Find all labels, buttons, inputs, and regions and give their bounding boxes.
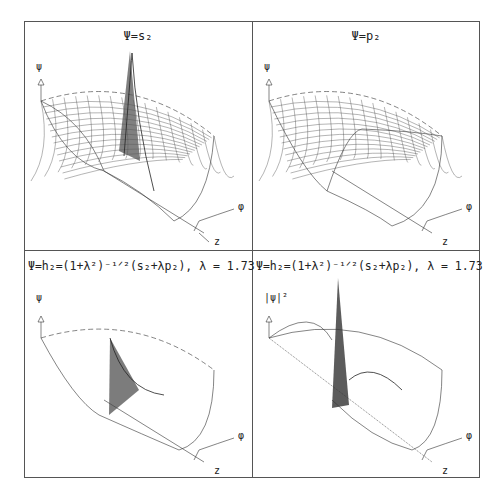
surface-plot-s2 xyxy=(24,21,252,249)
surface-plot-p2 xyxy=(252,21,480,249)
axis-z-label: z xyxy=(214,465,220,476)
axis-phi-label: φ xyxy=(238,201,244,212)
axis-phi-label: φ xyxy=(466,201,472,212)
axis-z-label: z xyxy=(442,465,448,476)
panel-s2: Ψ=s₂ ψ z φ xyxy=(24,21,252,249)
axis-phi-label: φ xyxy=(238,430,244,441)
panel-h2-density: Ψ=h₂=(1+λ²)⁻¹ᐟ²(s₂+λp₂), λ = 1.73 |ψ|² z… xyxy=(252,250,480,478)
panel-h2-psi: Ψ=h₂=(1+λ²)⁻¹ᐟ²(s₂+λp₂), λ = 1.73 ψ z φ xyxy=(24,250,252,478)
surface-plot-h2 xyxy=(24,250,252,478)
panel-p2: Ψ=p₂ ψ z φ xyxy=(252,21,480,249)
axis-phi-label: φ xyxy=(466,430,472,441)
axis-z-label: z xyxy=(442,236,448,247)
surface-plot-h2-density xyxy=(252,250,480,478)
axis-z-label: z xyxy=(214,236,220,247)
